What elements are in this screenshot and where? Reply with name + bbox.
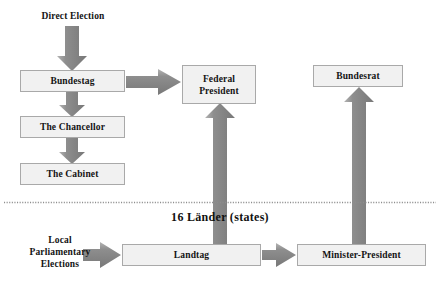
- node-the-cabinet[interactable]: The Cabinet: [20, 163, 125, 185]
- arrow-minister-president-to-bundesrat: [344, 87, 374, 245]
- label-local-parliamentary-elections-line2: Parliamentary: [29, 247, 90, 257]
- node-federal-president[interactable]: Federal President: [182, 65, 256, 104]
- node-the-chancellor-label: The Chancellor: [21, 121, 124, 133]
- node-landtag[interactable]: Landtag: [122, 244, 261, 266]
- node-landtag-label: Landtag: [123, 249, 260, 261]
- arrow-landtag-to-minister-president: [262, 243, 296, 267]
- label-local-parliamentary-elections: Local Parliamentary Elections: [10, 234, 110, 270]
- node-bundestag[interactable]: Bundestag: [20, 70, 125, 92]
- node-the-chancellor[interactable]: The Chancellor: [20, 116, 125, 138]
- node-minister-president[interactable]: Minister-President: [297, 244, 426, 266]
- arrow-bundestag-to-federal-president: [126, 69, 181, 95]
- political-system-diagram: Direct Election Bundestag The Chancellor…: [0, 0, 440, 282]
- label-local-parliamentary-elections-line3: Elections: [41, 259, 79, 269]
- arrow-direct-election-to-bundestag: [57, 26, 87, 71]
- label-local-parliamentary-elections-line1: Local: [48, 235, 71, 245]
- node-bundesrat[interactable]: Bundesrat: [313, 65, 403, 87]
- node-bundestag-label: Bundestag: [21, 75, 124, 87]
- arrow-bundestag-to-chancellor: [59, 92, 85, 117]
- node-federal-president-label: Federal President: [183, 73, 255, 97]
- node-bundesrat-label: Bundesrat: [314, 70, 402, 82]
- label-direct-election: Direct Election: [18, 10, 128, 22]
- node-the-cabinet-label: The Cabinet: [21, 168, 124, 180]
- node-federal-president-label-line2: President: [183, 85, 255, 97]
- node-federal-president-label-line1: Federal: [183, 73, 255, 85]
- arrow-chancellor-to-cabinet: [59, 138, 85, 164]
- label-sixteen-laender: 16 Länder (states): [140, 210, 300, 224]
- node-minister-president-label: Minister-President: [298, 249, 425, 261]
